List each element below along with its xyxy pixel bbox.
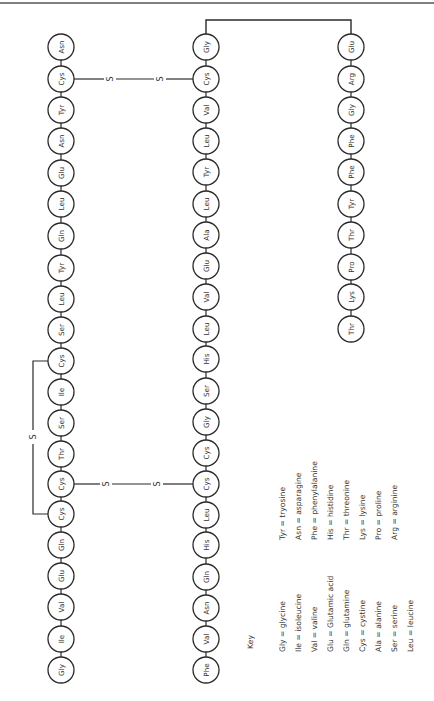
residue-label: Gln	[202, 571, 211, 583]
key-entry: Thr = threonine	[342, 479, 351, 541]
residue-ala: Ala	[193, 222, 219, 248]
residue-label: Tyr	[347, 199, 356, 211]
key-legend: KeyGly = glycineIle = isoleucineVal = va…	[246, 461, 415, 652]
residue-val: Val	[193, 284, 219, 310]
key-entry: Arg = arginine	[390, 484, 399, 540]
residue-his: His	[193, 532, 219, 558]
residue-thr: Thr	[338, 222, 364, 248]
residue-label: Gly	[57, 663, 66, 676]
residue-label: Val	[57, 602, 66, 613]
residue-label: Phe	[347, 165, 356, 179]
residue-asn: Asn	[193, 595, 219, 621]
residue-cys: Cys	[48, 471, 74, 497]
residue-leu: Leu	[193, 502, 219, 528]
residue-gly: Gly	[193, 409, 219, 435]
residue-label: Cys	[202, 446, 211, 459]
residue-ser: Ser	[48, 410, 74, 436]
residue-arg: Arg	[338, 66, 364, 92]
residue-label: Thr	[347, 229, 356, 242]
residue-phe: Phe	[338, 128, 364, 154]
residue-val: Val	[193, 97, 219, 123]
residue-leu: Leu	[193, 316, 219, 342]
residue-tyr: Tyr	[48, 255, 74, 281]
residue-label: Tyr	[57, 105, 66, 117]
residue-label: Ser	[57, 324, 66, 336]
sulfur-label: S	[156, 76, 165, 81]
residue-label: Gly	[347, 103, 356, 116]
residue-gln: Gln	[48, 532, 74, 558]
key-entry: Pro = proline	[374, 490, 383, 540]
residue-val: Val	[48, 594, 74, 620]
residue-tyr: Tyr	[193, 159, 219, 185]
residue-cys: Cys	[193, 471, 219, 497]
key-entry: Asn = asparagine	[294, 472, 303, 540]
residue-label: Glu	[57, 167, 66, 179]
residue-label: Pro	[347, 261, 356, 272]
residue-label: Val	[202, 292, 211, 303]
residue-ile: Ile	[48, 379, 74, 405]
residue-label: Cys	[202, 477, 211, 490]
key-entry: Phe = phenylalanine	[310, 461, 319, 540]
key-entry: Val = valine	[310, 606, 319, 652]
residue-asn: Asn	[48, 34, 74, 60]
residue-label: Ile	[57, 387, 66, 396]
residue-label: Val	[202, 105, 211, 116]
residue-label: His	[202, 539, 211, 550]
sulfur-label: S	[29, 434, 38, 439]
residue-label: Cys	[57, 507, 66, 520]
residue-label: Ser	[202, 385, 211, 397]
residue-val: Val	[193, 626, 219, 652]
chain-connector-line	[206, 20, 351, 34]
residue-cys: Cys	[48, 348, 74, 374]
residue-lys: Lys	[338, 284, 364, 310]
residue-label: Cys	[57, 354, 66, 367]
residue-glu: Glu	[48, 160, 74, 186]
diagram-canvas: SSSSS AsnCysTyrAsnGluLeuGlnTyrLeuSerCysI…	[0, 0, 434, 701]
residue-label: Leu	[202, 135, 211, 148]
residue-label: Glu	[57, 570, 66, 582]
residue-glu: Glu	[48, 563, 74, 589]
residue-label: Gln	[57, 539, 66, 551]
intrachain-bond-line	[33, 444, 48, 514]
residue-label: Val	[202, 634, 211, 645]
residue-tyr: Tyr	[48, 97, 74, 123]
residue-asn: Asn	[48, 128, 74, 154]
sulfur-label: S	[153, 481, 162, 486]
sulfur-label: S	[102, 481, 111, 486]
residue-label: Phe	[347, 134, 356, 148]
residue-label: His	[202, 353, 211, 364]
residue-cys: Cys	[48, 501, 74, 527]
residue-gly: Gly	[338, 97, 364, 123]
residue-label: Lys	[347, 291, 356, 303]
residue-label: Asn	[57, 40, 66, 53]
residue-label: Asn	[202, 601, 211, 614]
residue-thr: Thr	[338, 316, 364, 342]
insulin-diagram: SSSSS AsnCysTyrAsnGluLeuGlnTyrLeuSerCysI…	[0, 0, 434, 701]
residue-label: Leu	[202, 509, 211, 522]
key-entry: Ile = isoleucine	[294, 593, 303, 652]
residue-gln: Gln	[193, 564, 219, 590]
key-entry: Glu = Glutamic acid	[326, 576, 335, 652]
residue-label: Leu	[57, 198, 66, 211]
residue-label: Thr	[57, 448, 66, 461]
residue-label: Gln	[57, 230, 66, 242]
residue-gly: Gly	[193, 34, 219, 60]
residue-label: Glu	[202, 260, 211, 272]
key-entry: Gly = glycine	[278, 601, 287, 652]
residue-label: Glu	[347, 41, 356, 53]
residue-ile: Ile	[48, 626, 74, 652]
residue-cys: Cys	[193, 66, 219, 92]
residue-phe: Phe	[193, 657, 219, 683]
intrachain-bond-line	[33, 361, 48, 430]
residue-label: Leu	[202, 323, 211, 336]
residue-leu: Leu	[48, 286, 74, 312]
residue-leu: Leu	[48, 191, 74, 217]
residue-phe: Phe	[338, 159, 364, 185]
key-entry: Tyr = tryosine	[278, 487, 287, 541]
residue-gln: Gln	[48, 223, 74, 249]
residue-label: Gly	[202, 415, 211, 428]
residue-label: Cys	[202, 72, 211, 85]
residue-pro: Pro	[338, 254, 364, 280]
key-entry: Leu = leucine	[406, 600, 415, 652]
residue-leu: Leu	[193, 128, 219, 154]
